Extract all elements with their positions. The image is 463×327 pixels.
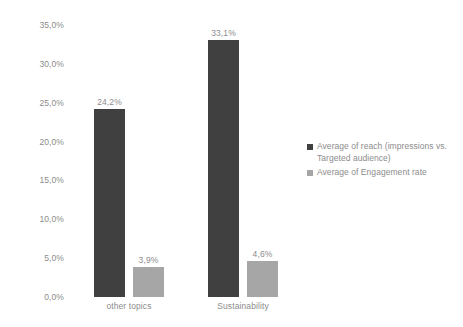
bar: 4,6% [247, 261, 278, 297]
y-axis-tick-label: 5,0% [44, 253, 64, 263]
bar-value-label: 33,1% [211, 28, 236, 38]
legend-item[interactable]: Average of reach (impressions vs. Target… [307, 141, 459, 164]
chart-legend: Average of reach (impressions vs. Target… [307, 141, 459, 182]
y-axis-tick-label: 20,0% [39, 137, 64, 147]
bar-chart: 0,0%5,0%10,0%15,0%20,0%25,0%30,0%35,0% 2… [0, 0, 463, 327]
legend-item[interactable]: Average of Engagement rate [307, 167, 459, 179]
legend-swatch-icon [307, 170, 313, 176]
y-axis-tick-label: 35,0% [39, 20, 64, 30]
y-axis: 0,0%5,0%10,0%15,0%20,0%25,0%30,0%35,0% [0, 0, 72, 327]
y-axis-tick-label: 10,0% [39, 214, 64, 224]
x-axis-category-label: other topics [72, 301, 186, 311]
y-axis-tick-label: 15,0% [39, 175, 64, 185]
bar-group: 33,1%4,6% [208, 25, 278, 297]
x-axis-category-label: Sustainability [186, 301, 300, 311]
plot-area: 24,2%3,9%33,1%4,6% [72, 25, 300, 297]
legend-label: Average of reach (impressions vs. Target… [317, 141, 459, 164]
bar: 24,2% [94, 109, 125, 297]
bar-group: 24,2%3,9% [94, 25, 164, 297]
y-axis-tick-label: 30,0% [39, 59, 64, 69]
bar: 33,1% [208, 40, 239, 297]
legend-label: Average of Engagement rate [317, 167, 427, 179]
bar-value-label: 3,9% [139, 255, 159, 265]
y-axis-tick-label: 0,0% [44, 292, 64, 302]
legend-swatch-icon [307, 144, 313, 150]
y-axis-tick-label: 25,0% [39, 98, 64, 108]
bar-value-label: 4,6% [253, 249, 273, 259]
bar-value-label: 24,2% [97, 97, 122, 107]
bar: 3,9% [133, 267, 164, 297]
